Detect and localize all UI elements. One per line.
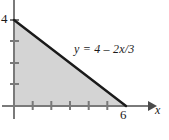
x-axis-label: x [155, 104, 160, 116]
graph-figure: 4 6 x y = 4 – 2x/3 [0, 0, 169, 140]
equation-annotation: y = 4 – 2x/3 [74, 43, 134, 55]
x-intercept-label: 6 [120, 108, 127, 121]
coordinate-plot-svg [0, 0, 169, 140]
y-intercept-label: 4 [1, 12, 8, 25]
